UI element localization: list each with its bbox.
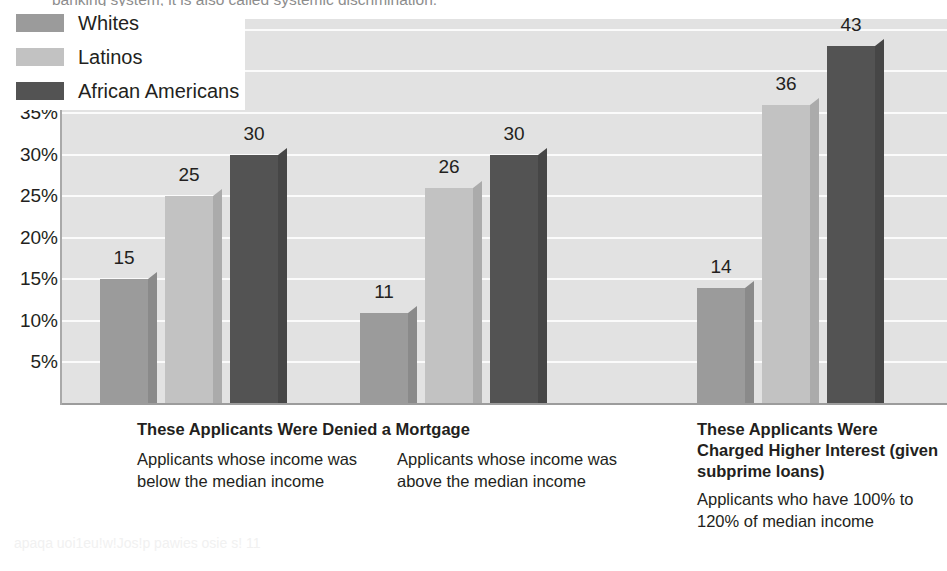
bar-face	[230, 155, 278, 404]
bar-face	[762, 105, 810, 404]
bar-value-label: 30	[479, 124, 549, 143]
bar-whites-group3	[697, 288, 745, 404]
bar-depth-face	[408, 313, 417, 404]
bar-whites-group2	[360, 313, 408, 404]
y-axis-tick-label: 20%	[2, 228, 58, 247]
bar-latinos-group2	[425, 188, 473, 404]
y-axis-tick-label: 15%	[2, 269, 58, 288]
bar-face	[100, 279, 148, 404]
bar-whites-group1	[100, 279, 148, 404]
bar-depth-face	[278, 155, 287, 404]
legend-label-whites: Whites	[78, 10, 139, 36]
bar-depth-face	[810, 105, 819, 404]
y-axis-tick-label: 30%	[2, 145, 58, 164]
bar-value-label: 26	[414, 157, 484, 176]
y-axis-tick-label: 5%	[2, 352, 58, 371]
group3-heading: These Applicants Were Charged Higher Int…	[697, 419, 945, 482]
group1-heading: These Applicants Were Denied a Mortgage	[137, 419, 470, 440]
legend-swatch-latinos	[16, 48, 64, 66]
legend-swatch-african-americans	[16, 82, 64, 100]
bar-value-label: 25	[154, 165, 224, 184]
bar-value-label: 43	[816, 15, 886, 34]
legend-label-latinos: Latinos	[78, 44, 143, 70]
group2-description: Applicants whose income was above the me…	[397, 449, 627, 492]
bar-depth-face	[473, 188, 482, 404]
bar-value-label: 36	[751, 74, 821, 93]
bar-face	[425, 188, 473, 404]
bar-depth-face	[148, 279, 157, 404]
bar-value-label: 15	[89, 248, 159, 267]
bar-face	[697, 288, 745, 404]
bar-depth-face	[875, 46, 884, 404]
bar-depth-face	[745, 288, 754, 404]
y-axis-tick-label: 25%	[2, 186, 58, 205]
bar-depth-face	[213, 196, 222, 404]
legend-swatch-whites	[16, 14, 64, 32]
bar-face	[490, 155, 538, 404]
bar-depth-face	[538, 155, 547, 404]
bar-face	[827, 46, 875, 404]
bar-value-label: 14	[686, 257, 756, 276]
group1-description: Applicants whose income was below the me…	[137, 449, 367, 492]
y-axis-tick-label: 10%	[2, 311, 58, 330]
legend-label-african-americans: African Americans	[78, 78, 239, 104]
group3-description: Applicants who have 100% to 120% of medi…	[697, 489, 945, 532]
bar-face	[360, 313, 408, 404]
bar-value-label: 11	[349, 282, 419, 301]
bar-face	[165, 196, 213, 404]
bar-african-americans-group1	[230, 155, 278, 404]
chart-legend: Whites Latinos African Americans	[2, 6, 245, 110]
bar-latinos-group1	[165, 196, 213, 404]
bar-african-americans-group2	[490, 155, 538, 404]
bar-latinos-group3	[762, 105, 810, 404]
x-axis-line	[62, 403, 947, 405]
scanner-bleed-text: apaqa uoi1eu!w!Jos!p pawies osie s! 11	[14, 533, 674, 553]
bar-african-americans-group3	[827, 46, 875, 404]
bar-value-label: 30	[219, 124, 289, 143]
